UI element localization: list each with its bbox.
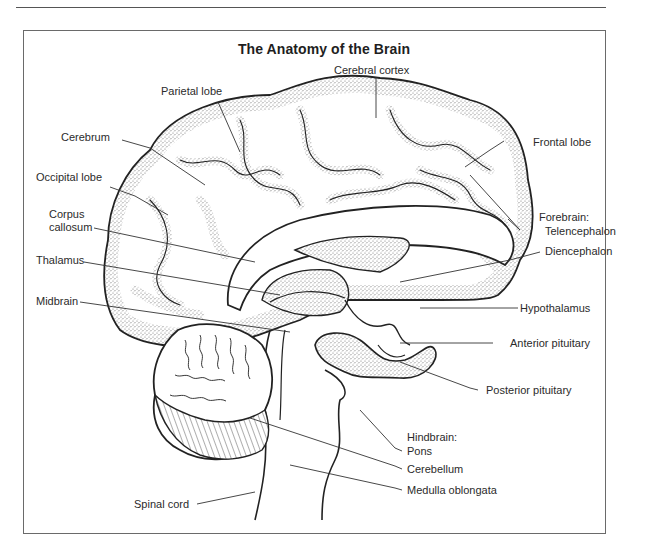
label-corpus-callosum-line1: Corpus [49, 208, 84, 221]
label-cerebellum: Cerebellum [407, 463, 463, 476]
label-hypothalamus: Hypothalamus [520, 302, 590, 315]
label-cerebral-cortex: Cerebral cortex [334, 64, 409, 77]
label-forebrain: Forebrain: [539, 211, 589, 224]
label-cerebrum: Cerebrum [61, 131, 110, 144]
label-hindbrain: Hindbrain: [407, 431, 457, 444]
pituitary-shape [315, 333, 436, 378]
label-corpus-callosum-line2: callosum [49, 221, 92, 234]
label-anterior-pituitary: Anterior pituitary [510, 337, 590, 350]
cerebellum-shape [154, 324, 272, 459]
label-diencephalon: Diencephalon [545, 245, 612, 258]
label-pons: Pons [407, 445, 432, 458]
label-medulla-oblongata: Medulla oblongata [407, 484, 497, 497]
label-midbrain: Midbrain [36, 295, 78, 308]
brain-illustration [0, 0, 648, 554]
label-frontal-lobe: Frontal lobe [533, 136, 591, 149]
label-parietal-lobe: Parietal lobe [161, 85, 222, 98]
label-telencephalon: Telencephalon [545, 225, 616, 238]
label-posterior-pituitary: Posterior pituitary [486, 384, 572, 397]
label-thalamus: Thalamus [36, 254, 84, 267]
label-spinal-cord: Spinal cord [134, 498, 189, 511]
label-occipital-lobe: Occipital lobe [36, 171, 102, 184]
